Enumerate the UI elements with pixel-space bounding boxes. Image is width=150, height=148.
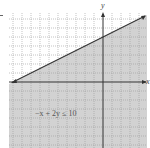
inequality-graph [0,0,150,148]
y-axis-label: y [101,2,105,10]
inequality-label: −x + 2y ≤ 10 [35,110,76,118]
x-axis-label: x [146,78,150,86]
